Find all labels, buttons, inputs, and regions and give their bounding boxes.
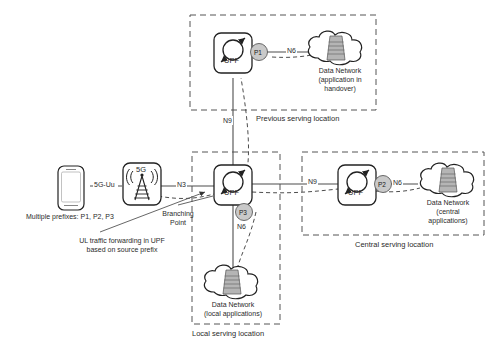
branching-point-line1: Branching <box>162 210 194 217</box>
annotation-ul-note: UL traffic forwarding in UPF based on so… <box>52 236 192 254</box>
interface-label-n6-central: N6 <box>392 178 403 187</box>
dn-handover-caption: Data Network (application in handover) <box>290 66 390 93</box>
upf-icon <box>214 165 252 205</box>
node-upf-central[interactable] <box>338 165 376 205</box>
node-dn-local[interactable] <box>204 265 257 299</box>
interface-label-5g-uu: 5G-Uu <box>93 180 116 189</box>
gnb-label: 5G <box>136 165 146 174</box>
server-stack <box>223 270 241 294</box>
link-n9-previous-dashed <box>241 78 249 176</box>
badge-p3-label: P3 <box>239 208 247 217</box>
dn-handover-line1: Data Network <box>319 67 361 74</box>
dn-local-line1: Data Network <box>212 301 254 308</box>
server-stack <box>439 168 457 192</box>
region-caption-local: Local serving location <box>192 329 264 338</box>
dn-handover-line3: handover) <box>324 85 356 92</box>
ul-note-line2: based on source prefix <box>87 246 158 253</box>
ul-note-line1: UL traffic forwarding in UPF <box>79 237 165 244</box>
node-ue[interactable] <box>58 166 84 210</box>
branching-point-line2: Point <box>170 219 186 226</box>
upf-previous-label: UPF <box>224 56 239 65</box>
link-n6-previous-dashed <box>272 55 312 57</box>
region-caption-previous: Previous serving location <box>256 114 339 123</box>
dn-handover-line2: (application in <box>318 76 361 83</box>
dn-local-caption: Data Network (local applications) <box>182 300 284 318</box>
dn-central-line2: (central <box>436 208 459 215</box>
interface-label-n9-central: N9 <box>307 177 318 186</box>
dn-central-line1: Data Network <box>427 199 469 206</box>
node-upf-previous[interactable] <box>214 33 252 73</box>
annotation-branching-point: Branching Point <box>152 209 204 227</box>
upf-icon <box>214 33 252 73</box>
upf-branching-label: UPF <box>224 188 239 197</box>
interface-label-n9-previous: N9 <box>222 116 233 125</box>
region-caption-central: Central serving location <box>355 240 433 249</box>
dn-central-caption: Data Network (central applications) <box>398 198 498 225</box>
interface-label-n6-previous: N6 <box>286 46 297 55</box>
dn-central-line3: applications) <box>428 217 467 224</box>
upf-central-label: UPF <box>348 188 363 197</box>
interface-label-n3: N3 <box>176 180 187 189</box>
node-dn-handover[interactable] <box>308 31 361 65</box>
server-stack <box>327 36 345 60</box>
interface-label-n6-local: N6 <box>236 222 247 231</box>
network-diagram-canvas <box>0 0 502 350</box>
upf-icon <box>338 165 376 205</box>
badge-p1-label: P1 <box>254 48 262 57</box>
badge-p2-label: P2 <box>378 180 386 189</box>
link-n9-central-dashed <box>252 189 338 193</box>
dn-local-line2: (local applications) <box>204 310 262 317</box>
node-dn-central[interactable] <box>420 163 473 197</box>
node-upf-branching[interactable] <box>214 165 252 205</box>
annotation-prefixes: Multiple prefixes: P1, P2, P3 <box>26 212 114 221</box>
